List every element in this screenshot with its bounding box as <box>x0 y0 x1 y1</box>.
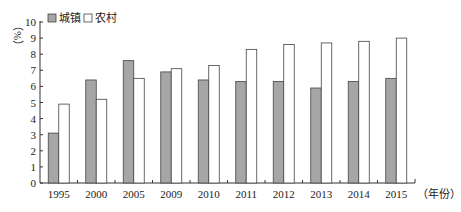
y-axis-label: （%） <box>12 20 24 51</box>
legend-label-urban: 城镇 <box>59 11 81 24</box>
bar-rural-1995 <box>59 104 70 183</box>
y-tick-label: 8 <box>31 48 37 60</box>
bar-rural-2005 <box>134 78 145 183</box>
y-tick-label: 5 <box>31 97 37 109</box>
bar-urban-2014 <box>348 82 359 183</box>
bar-urban-2011 <box>236 82 247 183</box>
legend-label-rural: 农村 <box>95 11 117 24</box>
y-tick-label: 1 <box>31 161 37 173</box>
x-tick-label: 2011 <box>235 188 257 200</box>
legend-swatch-rural <box>84 14 92 22</box>
y-tick-label: 7 <box>31 64 37 76</box>
x-tick-label: 2012 <box>273 188 295 200</box>
bar-rural-2015 <box>396 38 407 183</box>
x-tick-label: 2009 <box>160 188 183 200</box>
y-tick-label: 4 <box>31 113 37 125</box>
y-tick-label: 2 <box>31 145 37 157</box>
bar-rural-2011 <box>246 49 257 183</box>
bar-rural-2009 <box>171 69 182 183</box>
bar-rural-2010 <box>209 65 220 183</box>
bar-urban-1995 <box>48 133 59 183</box>
bar-urban-2012 <box>273 82 284 183</box>
bar-chart: 012345678910（%）1995200020052009201020112… <box>0 0 461 212</box>
x-tick-label: 2000 <box>85 188 108 200</box>
bar-urban-2015 <box>386 78 397 183</box>
bar-urban-2005 <box>123 61 134 183</box>
x-axis-label: （年份） <box>417 187 461 200</box>
bar-rural-2012 <box>284 45 295 183</box>
x-tick-label: 2010 <box>198 188 221 200</box>
y-tick-label: 6 <box>31 80 37 92</box>
legend-swatch-urban <box>48 14 56 22</box>
bar-urban-2010 <box>198 80 209 183</box>
y-tick-label: 10 <box>25 16 37 28</box>
bar-rural-2014 <box>359 41 370 183</box>
bar-rural-2013 <box>321 43 332 183</box>
bar-urban-2009 <box>161 72 172 183</box>
x-tick-label: 2015 <box>385 188 408 200</box>
bar-rural-2000 <box>96 99 107 183</box>
x-tick-label: 1995 <box>48 188 71 200</box>
y-tick-label: 0 <box>31 177 37 189</box>
y-tick-label: 9 <box>31 32 37 44</box>
bar-urban-2013 <box>311 88 322 183</box>
x-tick-label: 2014 <box>348 188 371 200</box>
bar-urban-2000 <box>86 80 97 183</box>
y-tick-label: 3 <box>31 129 37 141</box>
x-tick-label: 2005 <box>123 188 146 200</box>
x-tick-label: 2013 <box>310 188 333 200</box>
